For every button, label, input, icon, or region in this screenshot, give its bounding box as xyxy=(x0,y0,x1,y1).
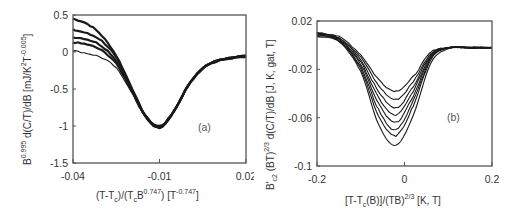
y-tick-label: 0.5 xyxy=(53,9,68,21)
chart-b-ticks: 0.02-0.02-0.06-0.1-0.200.2 xyxy=(288,15,499,185)
chart-line-curve-5 xyxy=(73,51,246,128)
chart-line-curve-1 xyxy=(73,19,246,126)
chart-line-curve-8 xyxy=(317,37,492,146)
chart-panel-a: 0.50-0.5-1-1.5-0.04-0.010.02 (a) (T-Tc)/… xyxy=(0,0,254,221)
x-tick-label: -0.04 xyxy=(61,170,85,182)
y-tick-label: 0.02 xyxy=(292,15,313,27)
y-tick-label: -0.1 xyxy=(294,160,312,172)
chart-a-panel-label: (a) xyxy=(198,121,211,133)
chart-b-y-axis-title: B'c2 (BT)2/3 d(C/T)/dB [J, K, gat, T] xyxy=(263,39,278,190)
chart-a-frame xyxy=(73,15,246,163)
chart-b-x-axis-title: [T-Tc(B)]/(TB)2/3 [K, T] xyxy=(345,193,441,208)
y-tick-label: -0.02 xyxy=(288,63,312,75)
chart-panel-b: 0.02-0.02-0.06-0.1-0.200.2 (b) [T-Tc(B)]… xyxy=(254,0,508,221)
chart-line-curve-4 xyxy=(73,42,246,128)
y-tick-label: -0.06 xyxy=(288,112,312,124)
chart-line-curve-3 xyxy=(73,37,246,128)
chart-line-curve-6 xyxy=(317,35,492,130)
chart-a-canvas: 0.50-0.5-1-1.5-0.04-0.010.02 (a) (T-Tc)/… xyxy=(0,0,254,221)
x-tick-label: -0.01 xyxy=(148,170,172,182)
chart-a-y-axis-title: B0.995 d(C/T)/dB [mJ/K2T-0.005] xyxy=(20,33,33,165)
chart-a-x-axis-title: (T-Tc)/(TcB0.747) [T-0.747] xyxy=(96,188,199,203)
y-tick-label: -1.5 xyxy=(50,157,68,169)
y-tick-label: -1 xyxy=(59,120,68,132)
chart-a-curves xyxy=(73,19,246,128)
y-tick-label: -0.5 xyxy=(50,83,68,95)
chart-b-curves xyxy=(317,33,492,146)
y-tick-label: 0 xyxy=(62,46,68,58)
chart-a-ticks: 0.50-0.5-1-1.5-0.04-0.010.02 xyxy=(50,9,254,182)
x-tick-label: -0.2 xyxy=(308,173,326,185)
x-tick-label: 0.2 xyxy=(485,173,500,185)
x-tick-label: 0.02 xyxy=(236,170,254,182)
chart-b-panel-label: (b) xyxy=(447,111,460,123)
x-tick-label: 0 xyxy=(402,173,408,185)
chart-b-canvas: 0.02-0.02-0.06-0.1-0.200.2 (b) [T-Tc(B)]… xyxy=(254,0,508,221)
